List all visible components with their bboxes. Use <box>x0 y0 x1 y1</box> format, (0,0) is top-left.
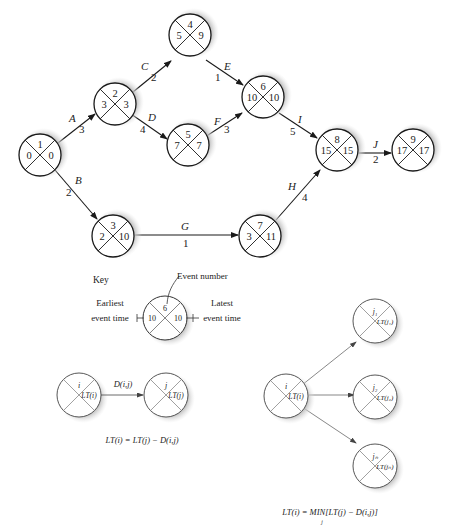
node-event-number: 7 <box>257 220 262 231</box>
node-earliest-time: 10 <box>247 92 258 103</box>
single-rule-formula: LT(i) = LT(j) − D(i,j) <box>104 435 178 445</box>
node-latest-time: 15 <box>343 145 354 156</box>
multi-node-i-lt: LT(i) <box>287 392 304 401</box>
activity-J-duration: 2 <box>373 153 379 165</box>
multi-rule-formula: LT(i) = MIN[LT(j) − D(i,j)] <box>281 507 377 517</box>
activity-J-name: J <box>373 138 379 150</box>
node-i-label: i <box>78 381 80 390</box>
event-node-2: 233 <box>94 77 144 127</box>
node-earliest-time: 7 <box>174 140 179 151</box>
node-latest-time: 17 <box>419 145 430 156</box>
event-node-6: 61010 <box>242 70 292 120</box>
node-latest-time: 10 <box>119 231 130 242</box>
node-earliest-time: 15 <box>321 145 332 156</box>
activity-A-name: A <box>68 112 76 124</box>
activity-I-name: I <box>297 113 303 125</box>
node-earliest-time: 0 <box>26 150 31 161</box>
activity-F-duration: 3 <box>224 123 230 135</box>
activity-E-name: E <box>223 60 231 72</box>
node-event-number: 3 <box>110 220 115 231</box>
node-latest-time: 0 <box>48 150 53 161</box>
node-jn-lt: LT(jₙ) <box>375 463 394 471</box>
activity-D-duration: 4 <box>140 123 146 135</box>
activity-A-duration: 3 <box>79 123 85 135</box>
node-j2-label: j₂ <box>372 383 378 392</box>
node-latest-time: 3 <box>123 99 128 110</box>
node-event-number: 1 <box>37 139 42 150</box>
key-latest-label-2: event time <box>203 313 241 323</box>
key-earliest-label-1: Earliest <box>96 298 124 308</box>
multi-successor-rule: i LT(i) j₁ LT(j₁) j₂ LT(j₂) jₙ LT(jₙ) LT… <box>264 299 404 525</box>
node-latest-time: 11 <box>266 231 276 242</box>
node-event-number: 6 <box>260 81 265 92</box>
event-node-1: 100 <box>19 128 69 178</box>
node-latest-time: 9 <box>198 30 203 41</box>
multi-rule-formula-subscript: j <box>320 519 323 525</box>
activity-G-name: G <box>181 220 189 232</box>
activity-D-name: D <box>147 111 156 123</box>
node-earliest-time: 17 <box>397 145 408 156</box>
node-j1-lt: LT(j₁) <box>376 318 394 326</box>
event-node-7: 7311 <box>239 209 289 259</box>
node-j1-label: j₁ <box>372 307 378 316</box>
pert-network-diagram: A 3 B 2 C 2 D 4 E 1 F 3 I 5 J 2 G 1 H 4 … <box>0 0 451 530</box>
node-event-number: 8 <box>334 134 339 145</box>
node-event-number: 4 <box>187 19 193 30</box>
event-node-8: 81515 <box>316 123 366 173</box>
node-jn-label: jₙ <box>371 452 378 461</box>
node-j-lt: LT(j) <box>167 391 184 400</box>
activity-B-duration: 2 <box>66 186 72 198</box>
key-event-number: 6 <box>163 304 167 313</box>
key-earliest-label-2: event time <box>91 313 129 323</box>
node-earliest-time: 5 <box>176 30 181 41</box>
activity-C-duration: 2 <box>151 71 157 83</box>
activity-H-duration: 4 <box>302 191 308 203</box>
node-latest-time: 7 <box>196 140 201 151</box>
event-node-5: 577 <box>167 118 217 168</box>
node-j2-lt: LT(j₂) <box>376 394 394 402</box>
activity-G-duration: 1 <box>183 237 189 249</box>
key-event-number-label: Event number <box>177 271 228 281</box>
key-latest-time: 10 <box>174 314 182 323</box>
activity-B-name: B <box>75 174 82 186</box>
activity-C-name: C <box>141 60 149 72</box>
node-i-lt: LT(i) <box>80 391 97 400</box>
event-node-3: 3210 <box>92 209 142 259</box>
activity-F-name: F <box>213 115 221 127</box>
arrow-H <box>276 170 320 220</box>
node-event-number: 9 <box>410 134 415 145</box>
node-earliest-time: 3 <box>246 231 251 242</box>
event-node-9: 91717 <box>392 123 442 173</box>
node-latest-time: 10 <box>269 92 280 103</box>
node-earliest-time: 2 <box>99 231 104 242</box>
key-title: Key <box>93 275 109 285</box>
key-latest-label-1: Latest <box>211 298 233 308</box>
node-earliest-time: 3 <box>101 99 106 110</box>
activity-I-duration: 5 <box>290 125 296 137</box>
arc-d-ij-label: D(i,j) <box>113 379 133 389</box>
activity-E-duration: 1 <box>215 71 221 83</box>
key-earliest-time: 10 <box>148 314 156 323</box>
single-successor-rule: i LT(i) D(i,j) j LT(j) LT(i) = LT(j) − D… <box>57 373 195 445</box>
arc-to-j1 <box>302 342 356 385</box>
key-legend: Key 6 10 10 Event number Earliest event … <box>91 271 241 346</box>
node-event-number: 2 <box>112 88 117 99</box>
activity-H-name: H <box>287 180 297 192</box>
node-event-number: 5 <box>185 129 190 140</box>
multi-node-i-label: i <box>285 382 287 391</box>
event-node-4: 459 <box>169 8 219 58</box>
